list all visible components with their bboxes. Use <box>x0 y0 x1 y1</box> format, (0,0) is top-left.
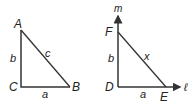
side-x-label: x <box>143 50 150 62</box>
side-a-label-right: a <box>140 88 146 100</box>
axis-m-label: m <box>114 3 122 14</box>
side-a-label: a <box>42 88 48 100</box>
right-triangle-hypotenuse <box>118 32 166 87</box>
axis-l-label: ℓ <box>183 81 188 93</box>
diagram-canvas: A C B b a c m ℓ F D E b a x <box>0 0 194 104</box>
right-triangle: m ℓ F D E b a x <box>105 3 188 104</box>
vertex-e-label: E <box>160 90 169 104</box>
side-c-label: c <box>45 47 51 59</box>
vertex-d-label: D <box>105 80 114 94</box>
vertex-f-label: F <box>105 25 113 39</box>
side-b-label-right: b <box>108 52 114 64</box>
vertex-c-label: C <box>9 80 18 94</box>
side-b-label: b <box>10 52 16 64</box>
vertex-b-label: B <box>72 80 80 94</box>
left-triangle: A C B b a c <box>9 17 80 100</box>
vertex-a-label: A <box>13 17 22 31</box>
